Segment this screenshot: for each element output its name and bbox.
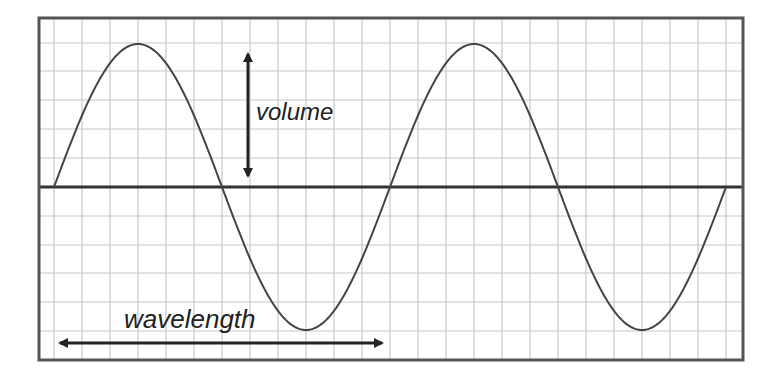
wave-diagram: volume wavelength xyxy=(0,0,783,374)
volume-label: volume xyxy=(256,98,333,125)
wavelength-label: wavelength xyxy=(124,304,256,334)
